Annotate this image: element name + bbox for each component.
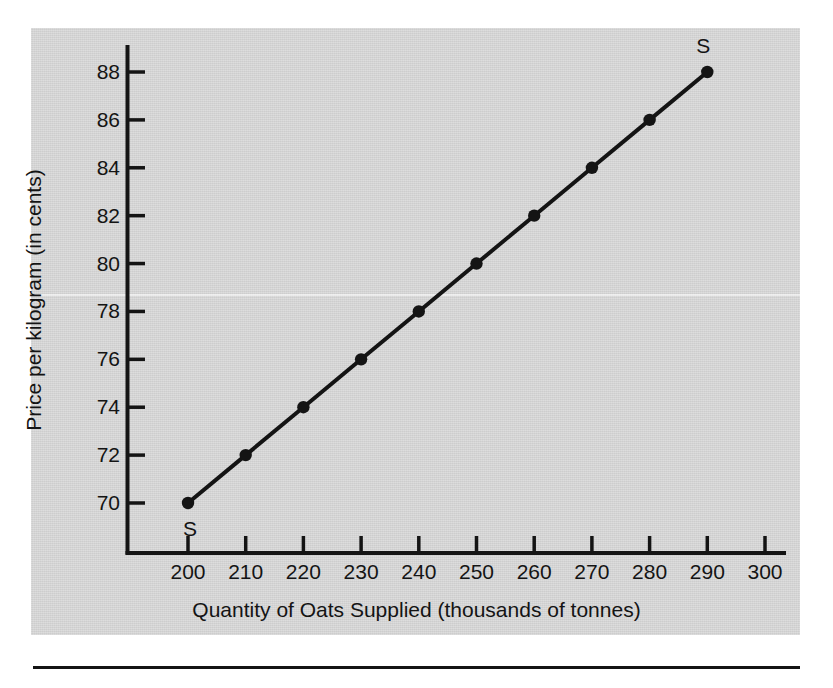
x-tick-label: 240 <box>401 560 436 584</box>
data-point-marker <box>528 209 540 221</box>
y-tick-label: 82 <box>78 204 120 228</box>
y-tick-label: 76 <box>78 347 120 371</box>
x-tick-label: 270 <box>574 560 609 584</box>
bottom-divider-rule <box>33 666 800 669</box>
y-tick-label: 80 <box>78 252 120 276</box>
x-tick-label: 230 <box>344 560 379 584</box>
data-point-marker <box>240 449 252 461</box>
data-point-marker <box>297 401 309 413</box>
y-tick-label: 70 <box>78 491 120 515</box>
x-tick-label: 250 <box>459 560 494 584</box>
axes <box>126 45 787 555</box>
supply-curve-label-s: S <box>696 34 710 58</box>
supply-curve-line <box>188 72 707 503</box>
y-axis-ticks <box>128 72 145 503</box>
y-tick-label: 88 <box>78 60 120 84</box>
data-point-marker <box>586 162 598 174</box>
data-point-marker <box>701 66 713 78</box>
x-axis-title: Quantity of Oats Supplied (thousands of … <box>0 598 833 622</box>
x-tick-label: 210 <box>228 560 263 584</box>
x-tick-label: 220 <box>286 560 321 584</box>
x-tick-label: 300 <box>747 560 782 584</box>
data-point-marker <box>643 114 655 126</box>
x-tick-label: 290 <box>690 560 725 584</box>
y-axis-title: Price per kilogram (in cents) <box>22 60 48 540</box>
data-point-marker <box>182 497 194 509</box>
x-tick-label: 280 <box>632 560 667 584</box>
supply-curve-series <box>182 66 714 509</box>
data-point-marker <box>413 305 425 317</box>
supply-curve-figure: 70727476788082848688 2002102202302402502… <box>0 0 833 688</box>
x-tick-label: 260 <box>517 560 552 584</box>
y-tick-label: 74 <box>78 395 120 419</box>
plot-area <box>0 0 833 688</box>
y-tick-label: 78 <box>78 299 120 323</box>
y-tick-label: 84 <box>78 156 120 180</box>
x-tick-label: 200 <box>170 560 205 584</box>
x-axis-ticks <box>188 536 765 552</box>
supply-curve-label-s: S <box>183 517 197 541</box>
data-point-marker <box>355 353 367 365</box>
y-tick-label: 72 <box>78 443 120 467</box>
data-point-marker <box>470 257 482 269</box>
y-tick-label: 86 <box>78 108 120 132</box>
